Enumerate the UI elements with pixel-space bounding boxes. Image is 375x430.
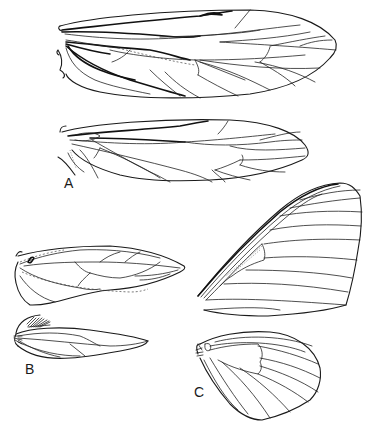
panel-a-forewing bbox=[57, 10, 336, 98]
panel-b-hindwing bbox=[14, 315, 148, 358]
wing-venation-figure: A B C bbox=[0, 0, 375, 430]
panel-label-b: B bbox=[25, 362, 34, 376]
panel-c-forewing bbox=[198, 183, 362, 316]
panel-a-hindwing bbox=[58, 120, 308, 182]
hair-fringe bbox=[27, 317, 50, 327]
panel-label-c: C bbox=[194, 385, 204, 399]
panel-c-hindwing bbox=[196, 332, 321, 420]
panel-b-forewing bbox=[15, 246, 185, 305]
panel-label-a: A bbox=[64, 176, 73, 190]
